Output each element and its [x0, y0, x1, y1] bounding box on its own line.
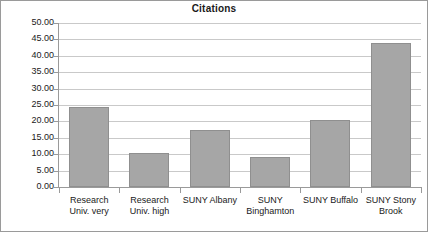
bar[interactable] [129, 153, 169, 187]
category-label: SUNY Stony Brook [361, 195, 421, 229]
y-axis-tick-mark [54, 154, 58, 155]
y-axis-tick-mark [54, 121, 58, 122]
plot-area [59, 23, 421, 187]
category-tick-mark [180, 187, 181, 193]
y-axis-tick-mark [54, 105, 58, 106]
category-label: SUNY Buffalo [300, 195, 360, 229]
category-tick-mark [59, 187, 60, 193]
y-axis-tick-mark [54, 171, 58, 172]
category-label: SUNY Albany [180, 195, 240, 229]
bar[interactable] [69, 107, 109, 187]
y-axis-tick-mark [54, 23, 58, 24]
bar[interactable] [190, 130, 230, 187]
bar-slot [59, 23, 119, 187]
y-axis-tick-label: 35.00 [6, 67, 54, 76]
bar-slot [300, 23, 360, 187]
y-axis-tick-labels: 50.0045.0040.0035.0030.0025.0020.0015.00… [1, 1, 54, 232]
y-axis-tick-label: 15.00 [6, 133, 54, 142]
bar[interactable] [371, 43, 411, 187]
bar-slot [180, 23, 240, 187]
bar[interactable] [310, 120, 350, 187]
category-label: SUNY Binghamton [240, 195, 300, 229]
bar-slot [119, 23, 179, 187]
y-axis-tick-mark [54, 138, 58, 139]
y-axis-tick-label: 0.00 [6, 182, 54, 191]
category-tick-mark [240, 187, 241, 193]
y-axis-tick-label: 50.00 [6, 18, 54, 27]
y-axis-tick-label: 10.00 [6, 149, 54, 158]
y-axis-tick-mark [54, 89, 58, 90]
category-tick-mark [119, 187, 120, 193]
bar[interactable] [250, 157, 290, 188]
y-axis-tick-mark [54, 72, 58, 73]
category-axis-labels: Research Univ. veryResearch Univ. highSU… [59, 195, 421, 229]
y-axis-tick-mark [54, 56, 58, 57]
y-axis-tick-mark [54, 39, 58, 40]
citations-bar-chart: Citations 50.0045.0040.0035.0030.0025.00… [0, 0, 428, 232]
category-tick-mark [300, 187, 301, 193]
category-label: Research Univ. very [59, 195, 119, 229]
bar-slot [240, 23, 300, 187]
y-axis-tick-label: 5.00 [6, 166, 54, 175]
category-tick-mark [361, 187, 362, 193]
category-label: Research Univ. high [119, 195, 179, 229]
y-axis-tick-label: 20.00 [6, 116, 54, 125]
y-axis-tick-label: 40.00 [6, 51, 54, 60]
y-axis-tick-label: 25.00 [6, 100, 54, 109]
y-axis-tick-mark [54, 187, 58, 188]
y-axis-tick-label: 45.00 [6, 34, 54, 43]
category-tick-mark [421, 187, 422, 193]
chart-title: Citations [1, 3, 427, 14]
y-axis-tick-label: 30.00 [6, 84, 54, 93]
category-axis-ticks [59, 187, 421, 193]
bar-slot [361, 23, 421, 187]
